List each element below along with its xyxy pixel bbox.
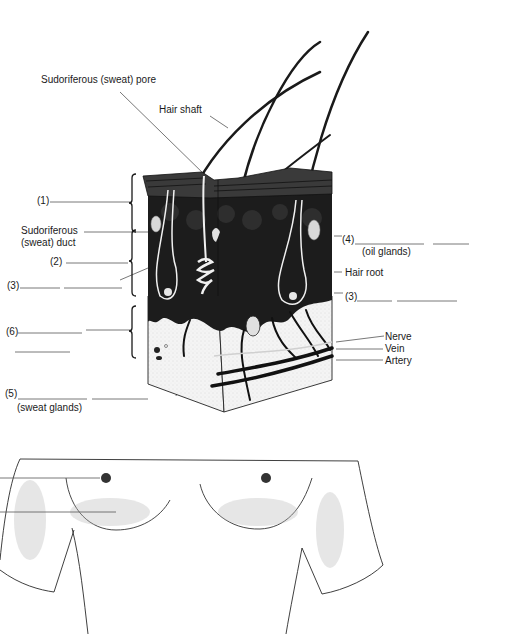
label-blank-2: (2)	[50, 256, 62, 268]
label-sweat-glands-hint: (sweat glands)	[17, 402, 82, 414]
label-nerve: Nerve	[385, 331, 412, 343]
skin-block	[143, 168, 332, 412]
label-blank-3-left: (3)	[7, 280, 19, 292]
label-hair-shaft: Hair shaft	[159, 104, 202, 116]
torso-shading	[14, 480, 344, 568]
label-blank-5: (5)	[5, 388, 17, 400]
label-blank-4: (4)	[342, 234, 354, 246]
skin-cross-section-drawing	[0, 0, 510, 634]
label-vein: Vein	[385, 343, 404, 355]
label-sweat-pore: Sudoriferous (sweat) pore	[41, 74, 156, 86]
label-hair-root: Hair root	[345, 267, 383, 279]
label-blank-3-right: (3)	[345, 291, 357, 303]
label-blank-1: (1)	[37, 195, 49, 207]
label-sweat-duct-line2: (sweat) duct	[21, 237, 75, 249]
label-artery: Artery	[385, 355, 412, 367]
nipples	[101, 473, 271, 483]
label-blank-6: (6)	[6, 326, 18, 338]
label-oil-glands-hint: (oil glands)	[362, 246, 411, 258]
label-sweat-duct-line1: Sudoriferous	[21, 225, 78, 237]
